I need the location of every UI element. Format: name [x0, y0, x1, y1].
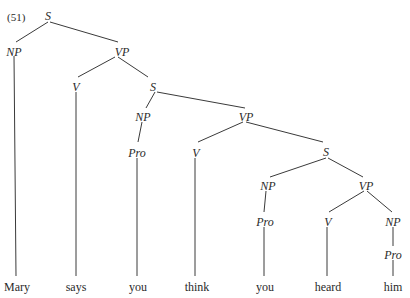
node-v-heard: V	[324, 215, 333, 229]
node-pro-you-1: Pro	[127, 146, 146, 160]
node-vp-main: VP	[115, 45, 130, 59]
node-s-embedded-2: S	[323, 145, 329, 159]
leaf-word: you	[256, 280, 274, 294]
tree-leaves: Mary says you think you heard him	[4, 280, 403, 294]
example-number: (51)	[7, 11, 26, 24]
leaf-word: him	[384, 280, 403, 294]
leaf-word: says	[66, 280, 87, 294]
node-s-embedded-1: S	[150, 80, 156, 94]
tree-nodes: S NP VP V S NP VP Pro V S NP VP Pro V NP…	[5, 9, 401, 262]
node-np-you-2: NP	[259, 179, 276, 193]
node-v-says: V	[72, 80, 81, 94]
node-pro-you-2: Pro	[255, 215, 274, 229]
node-np-you-1: NP	[134, 110, 151, 124]
node-pro-him: Pro	[383, 248, 402, 262]
leaf-word: heard	[315, 280, 342, 294]
leaf-word: think	[185, 280, 210, 294]
tree-edges	[14, 22, 393, 276]
node-np-him: NP	[384, 215, 401, 229]
node-v-think: V	[192, 146, 201, 160]
syntax-tree: (51) S NP VP V S NP VP Pro V S NP VP Pro…	[0, 0, 410, 298]
node-vp-think: VP	[239, 110, 254, 124]
node-np-subject: NP	[5, 45, 22, 59]
node-vp-heard: VP	[359, 179, 374, 193]
node-s-root: S	[45, 9, 51, 23]
leaf-word: Mary	[4, 280, 30, 294]
leaf-word: you	[129, 280, 147, 294]
